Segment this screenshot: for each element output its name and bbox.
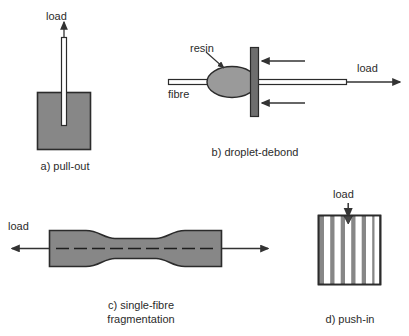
panel-c-fragmentation (12, 231, 268, 267)
figure-canvas: load resin fibre load load load a) pull-… (0, 0, 409, 336)
panel-b-droplet-debond (169, 48, 401, 117)
clamp-plate (251, 48, 259, 117)
fibre-label: fibre (168, 88, 189, 101)
fibre-a (62, 38, 67, 126)
load-label-a: load (46, 10, 67, 23)
panel-a-pullout (38, 22, 91, 150)
panel-d-pushin (319, 203, 381, 285)
caption-panel-a: a) pull-out (24, 159, 106, 173)
resin-droplet (207, 67, 257, 98)
caption-panel-d: d) push-in (309, 312, 391, 326)
resin-label: resin (190, 42, 214, 55)
caption-panel-c: c) single-fibre fragmentation (88, 298, 194, 326)
load-label-b: load (357, 62, 378, 75)
load-label-c: load (8, 220, 29, 233)
caption-panel-b: b) droplet-debond (190, 145, 320, 159)
load-label-d: load (333, 188, 354, 201)
